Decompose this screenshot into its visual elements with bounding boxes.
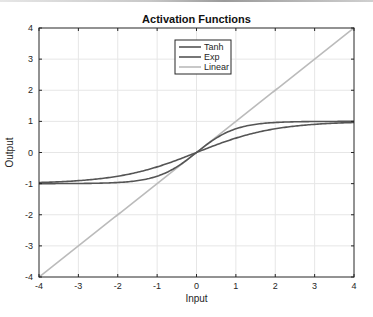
chart-title: Activation Functions bbox=[142, 13, 251, 25]
x-tick-label: -3 bbox=[74, 281, 82, 291]
legend-label-tanh: Tanh bbox=[204, 42, 224, 52]
y-tick-label: 4 bbox=[28, 23, 33, 33]
y-tick-label: -1 bbox=[25, 179, 33, 189]
y-tick-label: -2 bbox=[25, 210, 33, 220]
x-tick-label: -4 bbox=[35, 281, 43, 291]
activation-functions-chart: -4-3-2-101234-4-3-2-101234 Activation Fu… bbox=[0, 0, 373, 317]
x-tick-label: 0 bbox=[194, 281, 199, 291]
legend: Tanh Exp Linear bbox=[175, 40, 231, 74]
x-tick-label: -1 bbox=[153, 281, 161, 291]
y-tick-label: 1 bbox=[28, 116, 33, 126]
y-tick-label: -3 bbox=[25, 241, 33, 251]
y-tick-label: 2 bbox=[28, 85, 33, 95]
y-tick-label: 3 bbox=[28, 54, 33, 64]
y-tick-label: -4 bbox=[25, 272, 33, 282]
x-axis-label: Input bbox=[185, 293, 207, 304]
legend-label-linear: Linear bbox=[204, 62, 229, 72]
x-tick-label: 3 bbox=[312, 281, 317, 291]
y-tick-label: 0 bbox=[28, 148, 33, 158]
x-tick-label: 2 bbox=[273, 281, 278, 291]
legend-label-exp: Exp bbox=[204, 52, 220, 62]
x-tick-label: 1 bbox=[233, 281, 238, 291]
y-axis-label: Output bbox=[4, 137, 15, 167]
x-tick-label: -2 bbox=[114, 281, 122, 291]
x-tick-label: 4 bbox=[351, 281, 356, 291]
